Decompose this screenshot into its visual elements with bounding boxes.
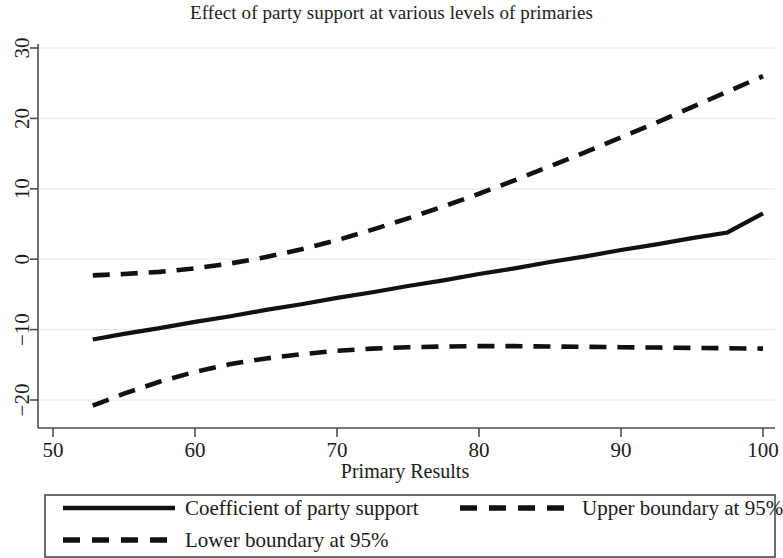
series-line-2: [93, 346, 763, 405]
x-tick-label: 60: [185, 438, 206, 462]
legend-label-1: Upper boundary at 95%: [582, 496, 783, 520]
y-tick-label: 10: [10, 178, 34, 199]
x-tick-label: 100: [747, 438, 779, 462]
legend-label-2: Lower boundary at 95%: [185, 528, 389, 552]
x-axis: 5060708090100: [38, 428, 779, 462]
chart-figure: Effect of party support at various level…: [0, 0, 783, 558]
x-tick-label: 50: [43, 438, 64, 462]
y-tick-label: −20: [10, 384, 34, 417]
series-line-0: [93, 213, 763, 339]
x-tick-label: 90: [611, 438, 632, 462]
legend-label-0: Coefficient of party support: [185, 496, 419, 520]
y-tick-label: 0: [10, 254, 34, 265]
chart-canvas: 3020100−10−20 5060708090100 Primary Resu…: [0, 0, 783, 558]
y-tick-label: 20: [10, 108, 34, 129]
series-lines: [93, 76, 763, 405]
y-tick-label: −10: [10, 313, 34, 346]
series-line-1: [93, 76, 763, 275]
x-axis-title: Primary Results: [341, 460, 470, 483]
x-tick-label: 80: [469, 438, 490, 462]
y-axis: 3020100−10−20: [10, 38, 38, 429]
x-tick-label: 70: [327, 438, 348, 462]
y-tick-label: 30: [10, 38, 34, 59]
legend: Coefficient of party supportUpper bounda…: [45, 495, 783, 557]
